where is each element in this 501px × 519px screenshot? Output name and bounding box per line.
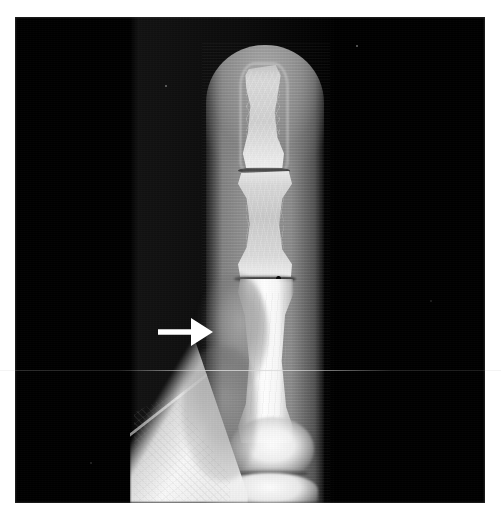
dust-speck: [430, 300, 432, 302]
radiograph-figure: Lateral radiograph of a finger showing s…: [0, 0, 501, 519]
dust-speck: [90, 462, 92, 464]
radiograph-plate[interactable]: [15, 17, 485, 503]
dust-speck: [356, 45, 358, 47]
exposure-field: [130, 17, 334, 503]
